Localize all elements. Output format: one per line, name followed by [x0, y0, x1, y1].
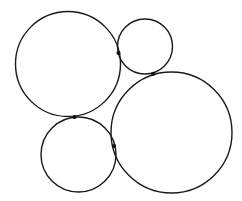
tangent-point-top-left-top-right: [116, 51, 120, 55]
tangent-point-top-left-bottom-left: [72, 115, 76, 119]
tangent-point-bottom-left-bottom-right: [112, 144, 116, 148]
tangent-circles-diagram: [0, 0, 242, 201]
diagram-background: [0, 0, 242, 201]
tangent-point-top-right-bottom-right: [151, 72, 155, 76]
